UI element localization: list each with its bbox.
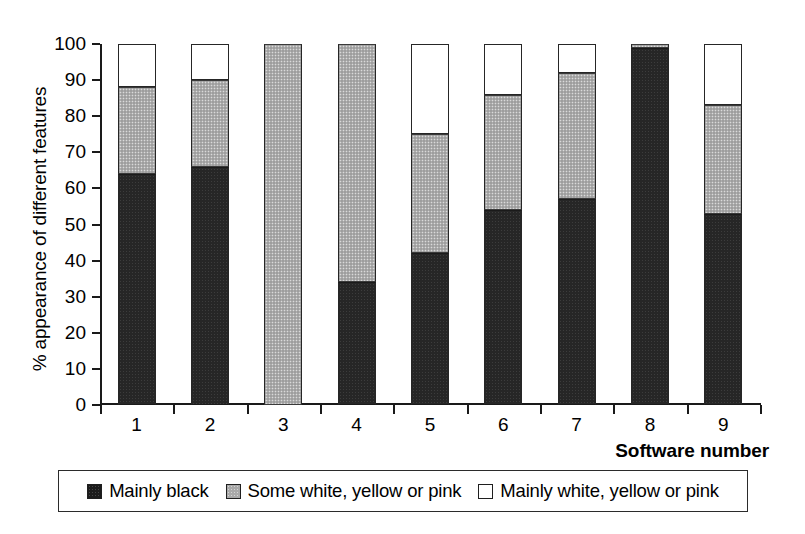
white-swatch-icon <box>478 484 493 499</box>
bar-segment-some-white-yellow-pink[interactable] <box>484 95 522 211</box>
bar-segment-some-white-yellow-pink[interactable] <box>338 44 376 282</box>
x-axis-tick-label: 6 <box>483 414 523 436</box>
bar-segment-mainly-white-yellow-pink[interactable] <box>191 44 229 80</box>
bar-segment-some-white-yellow-pink[interactable] <box>558 73 596 199</box>
x-axis-tick-label: 5 <box>410 414 450 436</box>
y-axis-tick-label: 100 <box>0 34 86 53</box>
chart-legend: Mainly blackSome white, yellow or pinkMa… <box>58 470 748 512</box>
bar-segment-some-white-yellow-pink[interactable] <box>411 134 449 253</box>
y-axis-tick-label: 40 <box>0 251 86 270</box>
bar-segment-some-white-yellow-pink[interactable] <box>191 80 229 167</box>
x-axis-tick-label: 3 <box>263 414 303 436</box>
x-axis-tick <box>247 405 249 414</box>
x-axis-tick <box>540 405 542 414</box>
bar-segment-some-white-yellow-pink[interactable] <box>118 87 156 174</box>
y-axis-tick-labels: 0102030405060708090100 <box>0 0 88 534</box>
y-axis-tick <box>92 43 100 45</box>
y-axis-tick-label: 90 <box>0 70 86 89</box>
x-axis-tick-label: 7 <box>557 414 597 436</box>
x-axis-tick <box>760 405 762 414</box>
legend-label: Some white, yellow or pink <box>248 480 462 502</box>
x-axis-tick-label: 2 <box>190 414 230 436</box>
y-axis-tick-label: 80 <box>0 106 86 125</box>
bar-stack[interactable] <box>338 44 376 405</box>
bar-segment-mainly-black[interactable] <box>411 253 449 405</box>
x-axis-tick <box>173 405 175 414</box>
bar-segment-mainly-black[interactable] <box>558 199 596 405</box>
y-axis-tick <box>92 260 100 262</box>
bar-segment-mainly-white-yellow-pink[interactable] <box>484 44 522 95</box>
y-axis-tick <box>92 187 100 189</box>
legend-item[interactable]: Mainly white, yellow or pink <box>478 480 719 502</box>
y-axis-tick <box>92 296 100 298</box>
y-axis-tick <box>92 224 100 226</box>
y-axis-tick <box>92 404 100 406</box>
bar-segment-some-white-yellow-pink[interactable] <box>704 105 742 213</box>
x-axis-tick <box>393 405 395 414</box>
y-axis-tick-label: 30 <box>0 287 86 306</box>
bar-segment-some-white-yellow-pink[interactable] <box>264 44 302 405</box>
bar-segment-mainly-black[interactable] <box>484 210 522 405</box>
y-axis-tick <box>92 151 100 153</box>
bar-segment-mainly-black[interactable] <box>118 174 156 405</box>
x-axis-tick-label: 1 <box>117 414 157 436</box>
bar-segment-mainly-white-yellow-pink[interactable] <box>558 44 596 73</box>
x-axis-tick-label: 8 <box>630 414 670 436</box>
legend-item[interactable]: Mainly black <box>87 480 208 502</box>
x-axis-title: Software number <box>615 440 769 462</box>
chart-figure: % appearance of different features 01020… <box>0 0 805 534</box>
x-axis-tick <box>687 405 689 414</box>
y-axis-tick <box>92 368 100 370</box>
bar-segment-mainly-black[interactable] <box>191 167 229 405</box>
x-axis-tick <box>613 405 615 414</box>
x-axis-tick-label: 9 <box>703 414 743 436</box>
y-axis-tick-label: 50 <box>0 215 86 234</box>
y-axis-tick-label: 0 <box>0 395 86 414</box>
legend-label: Mainly white, yellow or pink <box>500 480 719 502</box>
plot-area <box>100 44 760 405</box>
bar-stack[interactable] <box>484 44 522 405</box>
y-axis-tick <box>92 332 100 334</box>
y-axis-tick-label: 20 <box>0 323 86 342</box>
legend-label: Mainly black <box>109 480 208 502</box>
x-axis-tick <box>320 405 322 414</box>
bar-segment-mainly-white-yellow-pink[interactable] <box>704 44 742 105</box>
bar-segment-mainly-black[interactable] <box>631 48 669 405</box>
bar-segment-some-white-yellow-pink[interactable] <box>631 44 669 48</box>
x-axis-tick-label: 4 <box>337 414 377 436</box>
black-swatch-icon <box>87 484 102 499</box>
bar-stack[interactable] <box>118 44 156 405</box>
bar-stack[interactable] <box>191 44 229 405</box>
bar-stack[interactable] <box>631 44 669 405</box>
bar-segment-mainly-black[interactable] <box>338 282 376 405</box>
gray-swatch-icon <box>226 484 241 499</box>
bar-stack[interactable] <box>704 44 742 405</box>
y-axis-tick <box>92 79 100 81</box>
y-axis-tick-label: 70 <box>0 142 86 161</box>
legend-item[interactable]: Some white, yellow or pink <box>226 480 462 502</box>
bar-stack[interactable] <box>558 44 596 405</box>
y-axis-tick <box>92 115 100 117</box>
y-axis-tick-label: 60 <box>0 178 86 197</box>
x-axis-tick <box>100 405 102 414</box>
x-axis-tick <box>467 405 469 414</box>
bar-stack[interactable] <box>411 44 449 405</box>
bar-segment-mainly-white-yellow-pink[interactable] <box>118 44 156 87</box>
bar-segment-mainly-black[interactable] <box>704 214 742 405</box>
bar-segment-mainly-white-yellow-pink[interactable] <box>411 44 449 134</box>
y-axis-tick-label: 10 <box>0 359 86 378</box>
bar-stack[interactable] <box>264 44 302 405</box>
